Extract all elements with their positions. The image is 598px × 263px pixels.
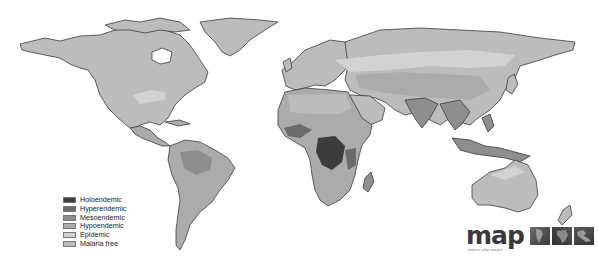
region-philippines bbox=[482, 114, 494, 132]
region-north-america bbox=[20, 26, 208, 130]
region-central-america bbox=[130, 126, 170, 146]
logo-tile-africa-icon bbox=[552, 227, 572, 245]
swatch-malaria-free bbox=[63, 241, 76, 247]
region-sahara bbox=[288, 94, 352, 114]
region-greenland bbox=[200, 18, 278, 56]
swatch-holoendemic bbox=[63, 197, 76, 203]
region-new-zealand bbox=[558, 205, 572, 225]
legend-label: Hypoendemic bbox=[80, 222, 124, 230]
logo-text: map bbox=[466, 226, 524, 246]
legend-label: Hyperendemic bbox=[80, 205, 126, 213]
swatch-mesoendemic bbox=[63, 215, 76, 221]
logo-subtitle: malaria atlas project bbox=[468, 248, 503, 252]
region-australia bbox=[472, 160, 538, 212]
legend-item-hyperendemic: Hyperendemic bbox=[63, 205, 126, 213]
legend-label: Malaria free bbox=[80, 240, 118, 248]
region-europe bbox=[282, 40, 350, 90]
region-hudson-bay bbox=[152, 48, 172, 64]
swatch-epidemic bbox=[63, 232, 76, 238]
swatch-hypoendemic bbox=[63, 223, 76, 229]
legend: Holoendemic Hyperendemic Mesoendemic Hyp… bbox=[63, 196, 126, 248]
swatch-hyperendemic bbox=[63, 206, 76, 212]
logo-tile-asia-pacific-icon bbox=[574, 227, 594, 245]
region-madagascar bbox=[363, 172, 374, 192]
region-indonesia bbox=[452, 138, 530, 162]
legend-item-malaria-free: Malaria free bbox=[63, 239, 126, 247]
logo-tiles bbox=[528, 227, 594, 245]
legend-label: Epidemic bbox=[80, 231, 110, 239]
region-caribbean bbox=[165, 120, 190, 126]
logo-tile-americas-icon bbox=[530, 227, 550, 245]
legend-item-epidemic: Epidemic bbox=[63, 231, 126, 239]
legend-label: Holoendemic bbox=[80, 196, 122, 204]
map-logo: map malaria atlas project bbox=[466, 226, 594, 246]
